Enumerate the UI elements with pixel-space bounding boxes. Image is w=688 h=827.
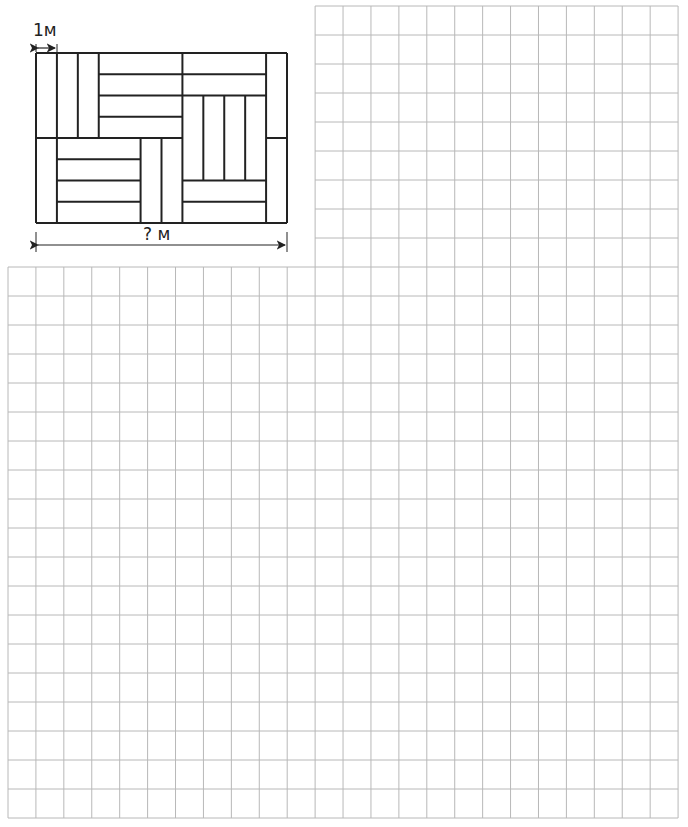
parquet-floor-diagram [0,0,688,827]
unit-dimension-arrow [36,44,57,52]
unit-length-label: 1м [33,22,57,39]
plank-layout [36,53,287,223]
unknown-width-label: ? м [143,226,170,243]
